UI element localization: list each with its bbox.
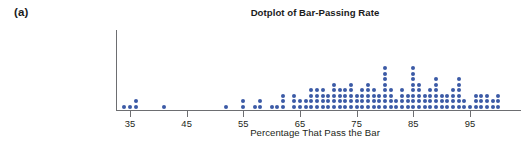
x-axis-title: Percentage That Pass the Bar: [116, 127, 514, 138]
x-axis-tick-marks: [131, 111, 471, 117]
plot-area: 35455565758595: [0, 0, 531, 144]
axis-lines: [0, 0, 531, 144]
dotplot-figure: (a) Dotplot of Bar-Passing Rate 35455565…: [0, 0, 531, 144]
